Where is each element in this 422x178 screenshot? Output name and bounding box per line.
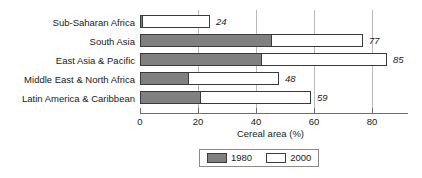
bar-row: 77 bbox=[140, 34, 401, 47]
legend-item-2000: 2000 bbox=[266, 153, 311, 163]
bar-segment-1980 bbox=[140, 34, 272, 47]
bar-row: 59 bbox=[140, 91, 401, 104]
x-axis-ticklabel-80: 80 bbox=[367, 116, 378, 127]
x-axis-tick-20 bbox=[198, 108, 199, 114]
category-label-sub-saharan-africa: Sub-Saharan Africa bbox=[0, 18, 135, 28]
bar-value-label: 77 bbox=[369, 34, 380, 47]
x-axis-tick-80 bbox=[372, 108, 373, 114]
cereal-area-bar-chart: Sub-Saharan Africa South Asia East Asia … bbox=[0, 0, 422, 178]
legend-label-1980: 1980 bbox=[231, 153, 252, 163]
legend-swatch-icon-2000 bbox=[266, 153, 286, 163]
x-axis-title: Cereal area (%) bbox=[140, 128, 401, 139]
bar-segment-1980 bbox=[140, 15, 143, 28]
x-axis-origin-tick bbox=[140, 108, 141, 114]
bar-segment-2000 bbox=[140, 15, 210, 28]
x-axis-ticklabel-20: 20 bbox=[193, 116, 204, 127]
category-label-latin-america-caribbean: Latin America & Caribbean bbox=[0, 94, 135, 104]
bar-segment-1980 bbox=[140, 91, 201, 104]
bar-segment-1980 bbox=[140, 53, 262, 66]
category-label-middle-east-north-africa: Middle East & North Africa bbox=[0, 75, 135, 85]
bar-row: 24 bbox=[140, 15, 401, 28]
legend-item-1980: 1980 bbox=[207, 153, 252, 163]
legend-label-2000: 2000 bbox=[290, 153, 311, 163]
x-axis-line bbox=[140, 113, 408, 114]
x-axis-tick-60 bbox=[314, 108, 315, 114]
bar-value-label: 85 bbox=[393, 53, 404, 66]
x-axis-ticklabel-40: 40 bbox=[251, 116, 262, 127]
category-label-south-asia: South Asia bbox=[0, 37, 135, 47]
bar-value-label: 24 bbox=[216, 15, 227, 28]
bar-segment-1980 bbox=[140, 72, 189, 85]
chart-legend: 1980 2000 bbox=[199, 149, 319, 167]
bar-row: 48 bbox=[140, 72, 401, 85]
bar-value-label: 59 bbox=[317, 91, 328, 104]
bar-value-label: 48 bbox=[285, 72, 296, 85]
x-axis-ticklabel-0: 0 bbox=[137, 116, 142, 127]
category-label-east-asia-pacific: East Asia & Pacific bbox=[0, 56, 135, 66]
legend-swatch-icon-1980 bbox=[207, 153, 227, 163]
x-axis-tick-40 bbox=[256, 108, 257, 114]
bar-row: 85 bbox=[140, 53, 401, 66]
x-axis-ticklabel-60: 60 bbox=[309, 116, 320, 127]
